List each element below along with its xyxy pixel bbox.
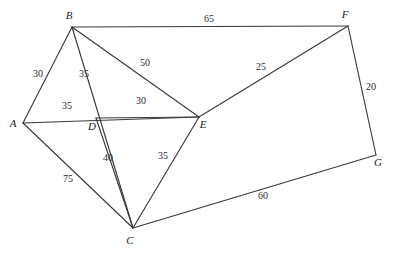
vertex-label-e: E xyxy=(199,118,207,130)
edge-weight-b-f: 65 xyxy=(204,13,214,24)
edge-weight-a-e: 35 xyxy=(62,100,72,111)
vertex-label-a: A xyxy=(9,117,17,129)
edge-weight-b-c: 35 xyxy=(79,68,89,79)
edge-weights-group: 303575355065304035252060 xyxy=(33,13,376,201)
graph-edge-e-f xyxy=(199,26,348,117)
edge-weight-d-e: 30 xyxy=(136,95,146,106)
edge-weight-a-c: 75 xyxy=(63,173,73,184)
edge-weight-d-c: 40 xyxy=(103,152,113,163)
weighted-graph-diagram: 303575355065304035252060 ABCDEFG xyxy=(0,0,397,254)
edge-weight-a-b: 30 xyxy=(33,68,43,79)
graph-edge-b-f xyxy=(72,26,348,27)
graph-vertex-b[interactable] xyxy=(67,22,77,32)
graph-vertex-f[interactable] xyxy=(343,21,353,31)
edge-weight-c-g: 60 xyxy=(258,190,268,201)
vertex-label-d: D xyxy=(87,120,96,132)
graph-canvas: 303575355065304035252060 ABCDEFG xyxy=(0,0,397,254)
vertex-label-g: G xyxy=(374,156,382,168)
graph-vertex-c[interactable] xyxy=(128,223,138,233)
graph-edge-d-c xyxy=(96,118,133,228)
vertex-label-b: B xyxy=(66,9,73,21)
edge-weight-e-f: 25 xyxy=(256,61,266,72)
edge-weight-e-c: 35 xyxy=(158,150,168,161)
nodes-group: ABCDEFG xyxy=(9,8,382,246)
graph-edge-b-c xyxy=(72,27,133,228)
edge-weight-f-g: 20 xyxy=(366,81,376,92)
edge-weight-b-e: 50 xyxy=(140,57,150,68)
vertex-label-f: F xyxy=(341,8,349,20)
vertex-label-c: C xyxy=(126,234,134,246)
graph-vertex-a[interactable] xyxy=(18,118,28,128)
